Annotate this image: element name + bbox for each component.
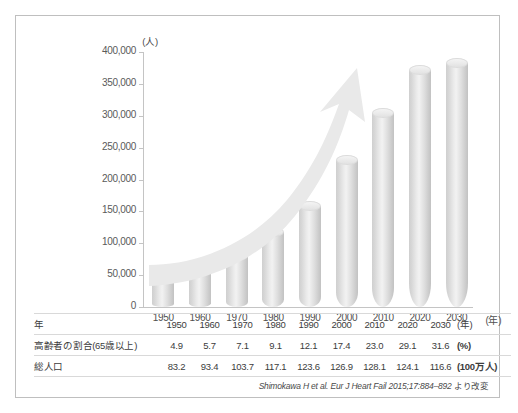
table-cell: 31.6 xyxy=(424,335,457,356)
bar-body xyxy=(372,113,394,307)
bar-top-ellipse xyxy=(226,251,248,261)
y-axis-tick-mark xyxy=(139,180,143,181)
table-cell: 124.1 xyxy=(391,356,424,377)
bar-2000 xyxy=(336,155,358,307)
bar-body xyxy=(299,206,321,307)
table-row-label: 年 xyxy=(34,314,160,335)
table-row-label: 高齢者の割合(65歳以上) xyxy=(34,335,160,356)
bar-1970 xyxy=(226,251,248,307)
y-axis-tick-mark xyxy=(139,307,143,308)
bar-body xyxy=(446,63,468,307)
table-cell: 17.4 xyxy=(325,335,358,356)
y-axis-tick-mark xyxy=(139,116,143,117)
table-row: 高齢者の割合(65歳以上)4.95.77.19.112.117.423.029.… xyxy=(34,335,511,356)
y-axis-tick-mark xyxy=(139,211,143,212)
table-row: 総人口83.293.4103.7117.1123.6126.9128.1124.… xyxy=(34,356,511,377)
y-axis-line xyxy=(143,52,144,308)
y-axis-tick-label: 150,000 xyxy=(74,204,136,215)
table-row-label: 総人口 xyxy=(34,356,160,377)
table-cell: 2000 xyxy=(325,314,358,335)
bar-top-ellipse xyxy=(189,264,211,274)
table-cell: 126.9 xyxy=(325,356,358,377)
citation-reference: Shimokawa H et al. Eur J Heart Fail 2015… xyxy=(259,381,452,391)
y-axis-tick-mark xyxy=(139,243,143,244)
table-cell: 128.1 xyxy=(358,356,391,377)
y-axis-tick-label: 100,000 xyxy=(74,236,136,247)
bar-2020 xyxy=(409,65,431,307)
bar-top-ellipse xyxy=(409,65,431,75)
y-axis-tick-mark xyxy=(139,275,143,276)
table-cell: 12.1 xyxy=(292,335,325,356)
table-cell: 1970 xyxy=(226,314,259,335)
table-cell: 1990 xyxy=(292,314,325,335)
x-axis-line xyxy=(143,307,473,308)
bar-body xyxy=(409,70,431,307)
table-cell: 29.1 xyxy=(391,335,424,356)
table-row: 年195019601970198019902000201020202030(年) xyxy=(34,314,511,335)
bar-body xyxy=(336,160,358,307)
y-axis-tick-label: 250,000 xyxy=(74,141,136,152)
y-axis-tick-label: 0 xyxy=(74,300,136,311)
y-axis-tick-mark xyxy=(139,52,143,53)
statistics-table: 年195019601970198019902000201020202030(年)… xyxy=(34,313,511,377)
y-axis-tick-mark xyxy=(139,84,143,85)
y-axis-tick-mark xyxy=(139,148,143,149)
figure-frame: (人) 050,000100,000150,000200,000250,0003… xyxy=(15,15,500,398)
table-cell: 1960 xyxy=(193,314,226,335)
table-row-unit: (%) xyxy=(457,335,511,356)
bar-1960 xyxy=(189,264,211,307)
chart-plot-area: (人) 050,000100,000150,000200,000250,0003… xyxy=(16,16,501,299)
bar-1980 xyxy=(262,227,284,307)
table-row-unit: (年) xyxy=(457,314,511,335)
table-cell: 9.1 xyxy=(259,335,292,356)
table-cell: 2010 xyxy=(358,314,391,335)
table-row-unit: (100万人) xyxy=(457,356,511,377)
citation: Shimokawa H et al. Eur J Heart Fail 2015… xyxy=(259,379,489,391)
table-cell: 5.7 xyxy=(193,335,226,356)
table-cell: 83.2 xyxy=(160,356,193,377)
table-cell: 7.1 xyxy=(226,335,259,356)
y-axis-tick-label: 50,000 xyxy=(74,268,136,279)
y-axis-tick-label: 300,000 xyxy=(74,109,136,120)
bar-1990 xyxy=(299,201,321,307)
citation-suffix: より改変 xyxy=(452,381,489,391)
y-axis-tick-label: 200,000 xyxy=(74,173,136,184)
bar-2030 xyxy=(446,58,468,307)
bar-body xyxy=(226,256,248,307)
y-axis-tick-label: 400,000 xyxy=(74,45,136,56)
y-axis-tick-label: 350,000 xyxy=(74,77,136,88)
table-cell: 4.9 xyxy=(160,335,193,356)
table-cell: 2020 xyxy=(391,314,424,335)
table-cell: 117.1 xyxy=(259,356,292,377)
table-cell: 1980 xyxy=(259,314,292,335)
table-cell: 93.4 xyxy=(193,356,226,377)
table-cell: 23.0 xyxy=(358,335,391,356)
table-cell: 103.7 xyxy=(226,356,259,377)
table-cell: 123.6 xyxy=(292,356,325,377)
bar-body xyxy=(262,232,284,307)
table-cell: 116.6 xyxy=(424,356,457,377)
table-cell: 2030 xyxy=(424,314,457,335)
bar-top-ellipse xyxy=(372,108,394,118)
bar-body xyxy=(189,269,211,307)
bar-1950 xyxy=(152,271,174,307)
table-cell: 1950 xyxy=(160,314,193,335)
bar-2010 xyxy=(372,108,394,307)
